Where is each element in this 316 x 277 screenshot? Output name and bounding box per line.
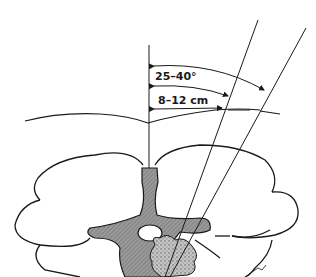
skin-surface-line xyxy=(25,109,280,123)
vertebral-needle-diagram: 25–40° 8–12 cm xyxy=(0,0,316,277)
angle-label: 25–40° xyxy=(155,70,197,83)
distance-label: 8–12 cm xyxy=(158,94,208,107)
